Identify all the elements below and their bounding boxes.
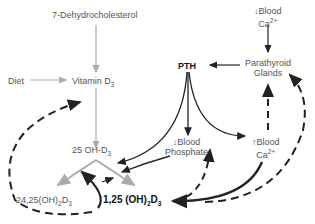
- node-diet: Diet: [8, 76, 24, 86]
- arrow-phosphate-to-conversion: [122, 156, 170, 172]
- pathway-arrows: [0, 0, 315, 224]
- arrow-pth-to-highca: [189, 72, 245, 136]
- node-vitamin-d3: Vitamin D3: [72, 76, 114, 90]
- node-1-25-oh2-d3: 1,25 (OH)2D3: [103, 195, 161, 209]
- node-24-25-oh2-d3: 24,25(OH)2D3: [16, 195, 72, 209]
- node-high-blood-calcium: ↑BloodCa2+: [252, 137, 280, 160]
- arrow-highca-to-125: [173, 162, 262, 201]
- node-low-blood-calcium: ↓BloodCa2+: [254, 6, 282, 29]
- arrow-125-inhibit-25oh: [82, 172, 101, 208]
- node-25-oh-d3: 25 OH-D3: [72, 145, 111, 159]
- node-parathyroid-glands: ParathyroidGlands: [245, 58, 291, 78]
- node-7-dehydrocholesterol: 7-Dehydrocholesterol: [52, 10, 138, 20]
- node-low-blood-phosphate: ↓BloodPhosphate: [165, 137, 208, 157]
- dashed-125-to-phosphate: [175, 150, 210, 201]
- arrow-to-125: [96, 160, 134, 185]
- node-pth: PTH: [178, 61, 196, 71]
- arrow-feedback-small: [102, 178, 113, 182]
